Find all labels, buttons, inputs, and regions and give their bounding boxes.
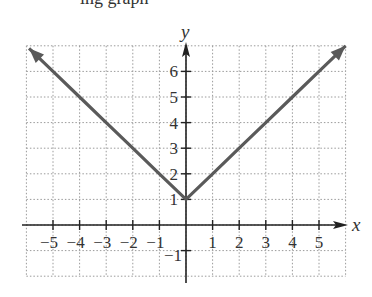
graph-absolute-value: −5−4−3−2−112345−1123456xy [0,0,372,297]
x-tick-label: −3 [93,233,111,252]
y-tick-label: 2 [170,165,179,184]
x-tick-label: −1 [146,233,164,252]
x-tick-label: −5 [40,233,58,252]
tick-labels: −5−4−3−2−112345−1123456xy [40,21,361,265]
x-tick-label: 5 [315,233,324,252]
y-tick-label: 1 [170,190,179,209]
x-tick-label: 2 [235,233,244,252]
y-tick-label: −1 [164,246,182,265]
x-tick-label: 1 [208,233,217,252]
x-axis-label: x [351,214,361,235]
x-tick-label: −2 [120,233,138,252]
y-tick-label: 4 [170,114,179,133]
x-tick-label: 4 [288,233,297,252]
y-axis-label: y [179,21,190,42]
x-tick-label: 3 [262,233,271,252]
y-tick-label: 6 [170,62,179,81]
y-tick-label: 3 [170,139,179,158]
x-tick-label: −4 [67,233,86,252]
y-tick-label: 5 [170,88,179,107]
